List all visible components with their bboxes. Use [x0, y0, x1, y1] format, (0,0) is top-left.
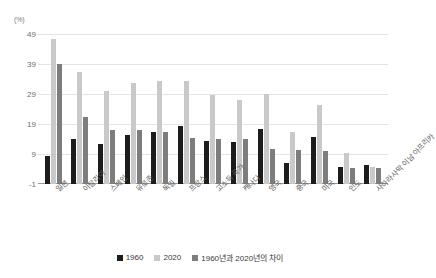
bar-s2020 — [264, 94, 269, 184]
legend-item[interactable]: 2020 — [154, 253, 181, 262]
legend-label: 1960년과 2020년의 차이 — [201, 252, 283, 263]
bar-s1960 — [364, 165, 369, 184]
bar-sdiff — [163, 132, 168, 184]
bar-s2020 — [370, 167, 375, 184]
bar-s2020 — [157, 81, 162, 185]
bar-sdiff — [137, 130, 142, 184]
bar-sdiff — [83, 117, 88, 185]
bar-s1960 — [284, 163, 289, 184]
legend-swatch-icon — [192, 255, 198, 261]
bar-group — [40, 34, 67, 184]
bar-group — [253, 34, 280, 184]
y-axis-unit-label: (%) — [14, 16, 24, 23]
y-axis-tick-label: 39 — [2, 60, 36, 69]
legend-label: 2020 — [163, 253, 181, 262]
legend-label: 1960 — [126, 253, 144, 262]
y-axis-tick-label: 19 — [2, 120, 36, 129]
bar-group — [173, 34, 200, 184]
bar-s1960 — [338, 167, 343, 184]
bar-group — [200, 34, 227, 184]
bar-s2020 — [210, 95, 215, 184]
chart-legend: 196020201960년과 2020년의 차이 — [0, 252, 400, 263]
legend-item[interactable]: 1960년과 2020년의 차이 — [192, 252, 283, 263]
y-axis-tick-label: -1 — [2, 180, 36, 189]
bar-s1960 — [311, 137, 316, 184]
bar-groups — [38, 34, 388, 184]
bar-s1960 — [178, 126, 183, 185]
legend-item[interactable]: 1960 — [117, 253, 144, 262]
legend-swatch-icon — [154, 255, 160, 261]
bar-group — [333, 34, 360, 184]
y-axis-tick-label: 49 — [2, 30, 36, 39]
y-axis-ticks: 493929199-1 — [0, 34, 36, 184]
bar-s2020 — [77, 72, 82, 185]
bar-s2020 — [51, 39, 56, 185]
bar-s1960 — [71, 139, 76, 184]
bar-group — [146, 34, 173, 184]
bar-s2020 — [317, 105, 322, 185]
bar-group — [279, 34, 306, 184]
bar-s2020 — [344, 153, 349, 184]
bar-s2020 — [104, 91, 109, 184]
bar-group — [120, 34, 147, 184]
bar-s2020 — [131, 83, 136, 184]
plot-area — [38, 34, 388, 184]
bar-sdiff — [110, 130, 115, 184]
bar-group — [306, 34, 333, 184]
bar-s1960 — [45, 156, 50, 185]
bar-sdiff — [57, 64, 62, 184]
bar-group — [93, 34, 120, 184]
bar-s2020 — [184, 81, 189, 185]
bar-s2020 — [290, 132, 295, 185]
y-axis-tick-label: 29 — [2, 90, 36, 99]
legend-swatch-icon — [117, 255, 123, 261]
y-axis-tick-label: 9 — [2, 150, 36, 159]
bar-group — [359, 34, 386, 184]
bar-group — [67, 34, 94, 184]
